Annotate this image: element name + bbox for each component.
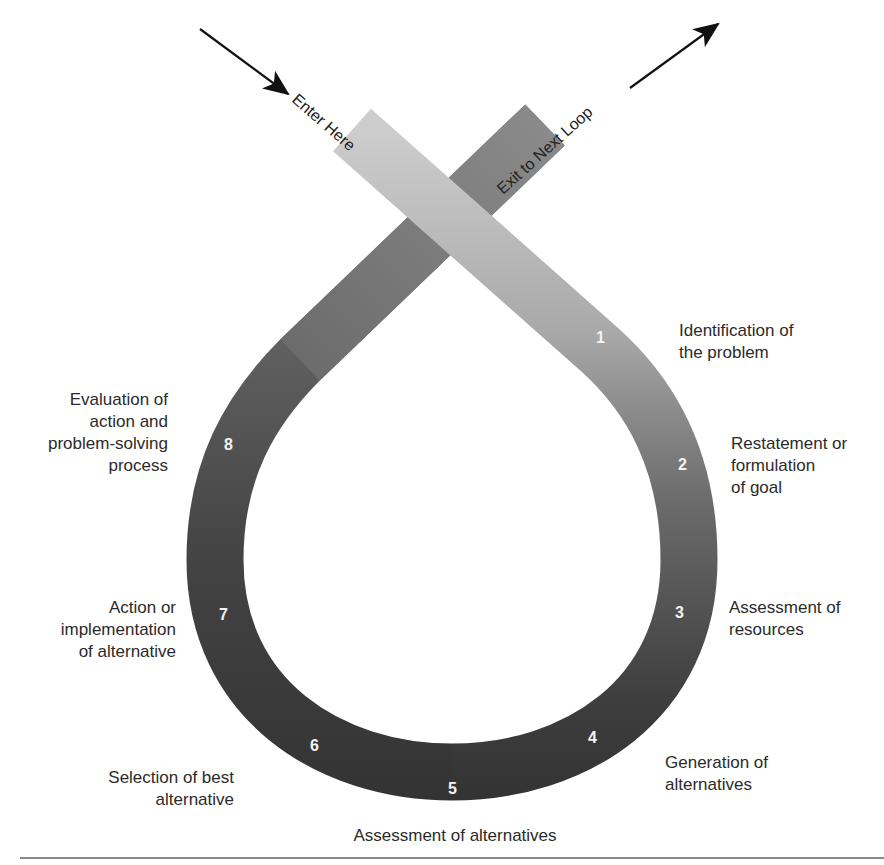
step-label-4: Generation of alternatives [665,752,768,796]
step-number-3: 3 [675,604,684,621]
step-label-8: Evaluation of action and problem-solving… [40,389,168,477]
step-label-7-line: Action or [60,597,176,619]
step-label-4-line: Generation of [665,752,768,774]
step-label-1-line: Identification of [679,320,793,342]
step-number-6: 6 [310,737,319,754]
step-label-2-line: formulation [731,455,847,477]
step-label-7-line: of alternative [60,641,176,663]
bottom-divider [20,857,884,859]
step-label-8-line: action and [40,411,168,433]
step-label-2-line: of goal [731,477,847,499]
step-label-6-line: alternative [80,789,234,811]
step-label-8-line: process [40,455,168,477]
step-label-2-line: Restatement or [731,433,847,455]
step-label-2: Restatement or formulation of goal [731,433,847,499]
step-label-1-line: the problem [679,342,793,364]
step-number-2: 2 [678,456,687,473]
enter-here-label: Enter Here [289,90,359,154]
step-label-5: Assessment of alternatives [310,825,600,847]
step-label-4-line: alternatives [665,774,768,796]
step-label-1: Identification of the problem [679,320,793,364]
step-number-1: 1 [596,329,605,346]
step-label-8-line: Evaluation of [40,389,168,411]
enter-arrow-icon [200,29,288,94]
step-label-7-line: implementation [60,619,176,641]
step-number-5: 5 [448,780,457,797]
step-label-8-line: problem-solving [40,433,168,455]
step-number-7: 7 [219,606,228,623]
step-number-4: 4 [588,729,597,746]
step-label-6: Selection of best alternative [80,767,234,811]
step-label-3: Assessment of resources [729,597,841,641]
step-number-8: 8 [224,436,233,453]
step-label-3-line: resources [729,619,841,641]
step-label-5-line: Assessment of alternatives [310,825,600,847]
step-label-7: Action or implementation of alternative [60,597,176,663]
step-label-3-line: Assessment of [729,597,841,619]
exit-arrow-icon [630,24,718,88]
step-label-6-line: Selection of best [80,767,234,789]
